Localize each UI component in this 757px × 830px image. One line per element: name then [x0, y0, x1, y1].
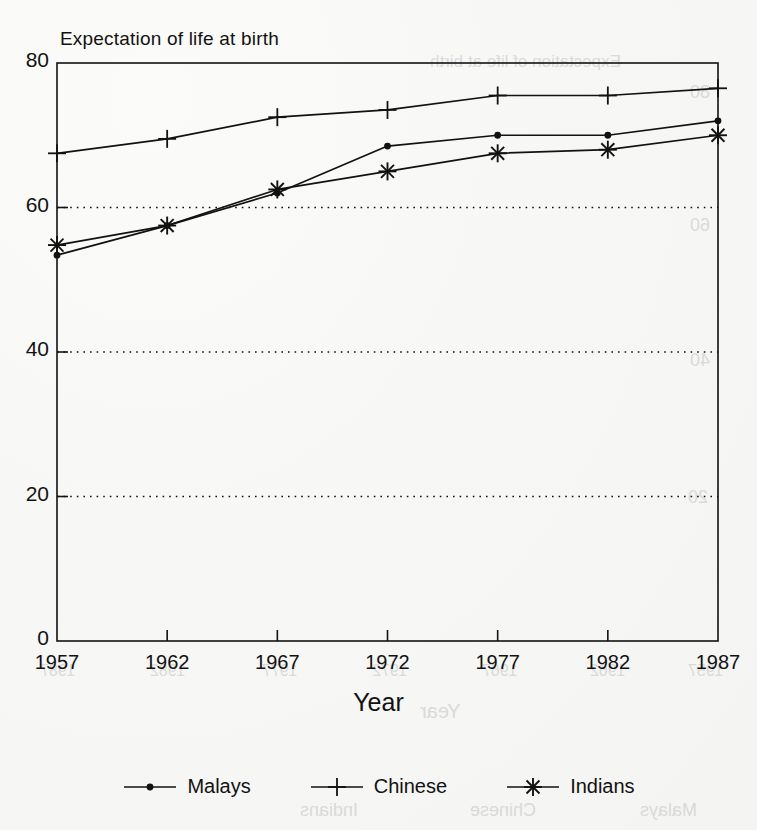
data-point-malays-1972	[384, 143, 391, 150]
dot-marker-icon	[147, 783, 154, 790]
data-point-indians-1957	[48, 236, 66, 254]
x-tick-label-1977: 1977	[455, 651, 541, 674]
dot-marker-icon	[715, 117, 722, 124]
data-point-malays-1987	[715, 117, 722, 124]
asterisk-marker-icon	[524, 778, 542, 796]
x-tick-label-1957: 1957	[14, 651, 100, 674]
y-tick-label-0: 0	[3, 626, 49, 650]
legend-entry-chinese[interactable]: Chinese	[309, 775, 447, 798]
dot-marker-icon	[494, 132, 501, 139]
x-tick-label-1967: 1967	[234, 651, 320, 674]
x-tick-label-1972: 1972	[345, 651, 431, 674]
legend-label: Chinese	[374, 775, 447, 798]
dot-marker-icon	[122, 777, 178, 797]
data-point-chinese-1957	[48, 144, 66, 162]
data-point-chinese-1982	[599, 87, 617, 105]
data-point-indians-1967	[268, 180, 286, 198]
y-tick-label-20: 20	[3, 482, 49, 506]
data-point-chinese-1987	[709, 79, 727, 97]
x-tick-label-1982: 1982	[565, 651, 651, 674]
dot-marker-icon	[604, 132, 611, 139]
data-point-indians-1977	[489, 144, 507, 162]
dot-marker-icon	[384, 143, 391, 150]
y-tick-label-80: 80	[3, 48, 49, 72]
y-tick-label-40: 40	[3, 337, 49, 361]
chart-legend: MalaysChineseIndians	[0, 775, 757, 798]
legend-entry-indians[interactable]: Indians	[505, 775, 635, 798]
line-chart: Expectation of life at birth 806040200 1…	[0, 0, 757, 830]
plot-area	[0, 0, 757, 700]
data-point-chinese-1967	[268, 108, 286, 126]
data-point-indians-1982	[599, 141, 617, 159]
data-point-indians-1987	[709, 126, 727, 144]
data-point-chinese-1962	[158, 130, 176, 148]
data-point-indians-1962	[158, 217, 176, 235]
x-tick-label-1962: 1962	[124, 651, 210, 674]
x-tick-label-1987: 1987	[675, 651, 757, 674]
data-point-chinese-1972	[379, 101, 397, 119]
legend-label: Indians	[570, 775, 635, 798]
asterisk-marker-icon	[505, 777, 561, 797]
y-tick-label-60: 60	[3, 193, 49, 217]
dot-marker-icon	[147, 783, 154, 790]
data-point-malays-1982	[604, 132, 611, 139]
legend-entry-malays[interactable]: Malays	[122, 775, 250, 798]
data-point-malays-1977	[494, 132, 501, 139]
legend-label: Malays	[187, 775, 250, 798]
plus-marker-icon	[328, 778, 346, 796]
x-axis-title: Year	[0, 688, 757, 717]
data-point-indians-1972	[379, 162, 397, 180]
plus-marker-icon	[309, 777, 365, 797]
data-point-chinese-1977	[489, 87, 507, 105]
